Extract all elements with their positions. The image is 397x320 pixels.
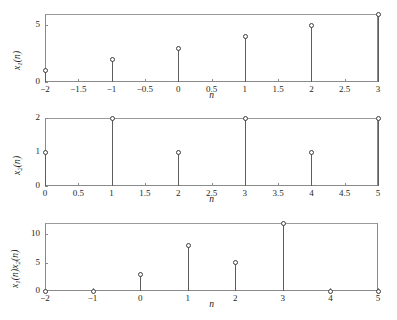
y-axis-label-x1: x1(n)	[12, 51, 23, 70]
x-axis-label-x2: n	[45, 194, 378, 204]
stem-marker	[281, 221, 286, 226]
y-tick-label: 5	[13, 257, 40, 267]
x-tick-mark	[78, 183, 79, 186]
plot-frame-x1	[45, 14, 378, 82]
stem-line	[311, 25, 312, 82]
x-axis-label-product: n	[45, 299, 378, 309]
y-tick-mark	[45, 82, 48, 83]
y-tick-mark	[45, 25, 48, 26]
stem-line	[311, 152, 312, 186]
subplot-product: x1(n)x2(n) −2−1012345 0510 n	[0, 210, 397, 320]
x-tick-mark	[78, 79, 79, 82]
stem-marker	[176, 46, 181, 51]
stem-line	[245, 37, 246, 82]
plot-frame-product	[45, 223, 378, 291]
y-tick-mark	[45, 118, 48, 119]
y-tick-label: 0	[13, 76, 40, 86]
stem-line	[178, 48, 179, 82]
stem-line	[235, 263, 236, 291]
stem-line	[283, 223, 284, 291]
stem-line	[112, 118, 113, 186]
stem-marker	[43, 150, 48, 155]
y-tick-mark	[45, 234, 48, 235]
x-tick-mark	[345, 183, 346, 186]
y-tick-label: 0	[13, 285, 40, 295]
stem-marker	[138, 272, 143, 277]
y-tick-label: 1	[13, 146, 40, 156]
y-tick-label: 10	[13, 228, 40, 238]
stem-line	[245, 118, 246, 186]
y-tick-label: 0	[13, 180, 40, 190]
stem-marker	[376, 289, 381, 294]
x-tick-mark	[345, 79, 346, 82]
plot-frame-x2	[45, 118, 378, 186]
stem-marker	[376, 12, 381, 17]
stem-marker	[110, 57, 115, 62]
stem-plot-figure: x1(n) −2−1.5−1−0.500.511.522.53 05 n x2(…	[0, 0, 397, 320]
stem-marker	[176, 150, 181, 155]
stem-marker	[243, 116, 248, 121]
stem-marker	[43, 289, 48, 294]
stem-marker	[309, 150, 314, 155]
y-tick-mark	[45, 186, 48, 187]
stem-line	[378, 118, 379, 186]
y-axis-label-product: x1(n)x2(n)	[10, 250, 21, 288]
stem-marker	[110, 116, 115, 121]
y-axis-label-x2: x2(n)	[12, 156, 23, 175]
stem-marker	[186, 243, 191, 248]
stem-line	[45, 152, 46, 186]
stem-line	[378, 14, 379, 82]
y-tick-mark	[45, 263, 48, 264]
x-tick-mark	[278, 183, 279, 186]
y-tick-label: 5	[13, 19, 40, 29]
x-tick-mark	[145, 183, 146, 186]
stem-marker	[243, 34, 248, 39]
stem-line	[140, 274, 141, 291]
subplot-x2: x2(n) 00.511.522.533.544.55 012 n	[0, 105, 397, 210]
x-tick-mark	[278, 79, 279, 82]
stem-line	[188, 246, 189, 291]
x-tick-mark	[212, 79, 213, 82]
x-axis-label-x1: n	[45, 90, 378, 100]
stem-marker	[91, 289, 96, 294]
stem-line	[112, 59, 113, 82]
stem-line	[178, 152, 179, 186]
x-tick-mark	[212, 183, 213, 186]
subplot-x1: x1(n) −2−1.5−1−0.500.511.522.53 05 n	[0, 0, 397, 105]
y-tick-label: 2	[13, 112, 40, 122]
stem-marker	[376, 116, 381, 121]
x-tick-mark	[145, 79, 146, 82]
